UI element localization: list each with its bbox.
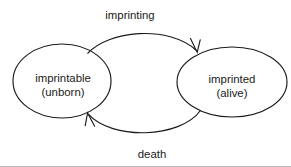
state-node-imprinted[interactable]: imprinted (alive) — [177, 47, 287, 117]
transition-death[interactable]: death — [85, 111, 200, 161]
diagram-canvas: imprintable (unborn) imprinted (alive) i… — [0, 0, 291, 167]
transition-label-imprinting: imprinting — [105, 9, 154, 21]
transition-label-death: death — [138, 148, 167, 160]
transition-arc-imprinting[interactable] — [88, 33, 197, 53]
state-label-imprinted-line2: (alive) — [216, 87, 247, 99]
arrowhead-imprinting — [191, 39, 201, 53]
arrowhead-death — [85, 113, 94, 126]
state-label-imprintable-line2: (unborn) — [41, 86, 84, 98]
bottom-frame-divider — [0, 166, 291, 167]
transition-arc-death[interactable] — [88, 111, 200, 133]
transition-imprinting[interactable]: imprinting — [88, 9, 201, 54]
state-label-imprinted-line1: imprinted — [209, 73, 256, 85]
state-node-imprintable[interactable]: imprintable (unborn) — [13, 44, 111, 118]
state-transition-diagram: imprintable (unborn) imprinted (alive) i… — [0, 0, 291, 167]
state-label-imprintable-line1: imprintable — [35, 72, 91, 84]
